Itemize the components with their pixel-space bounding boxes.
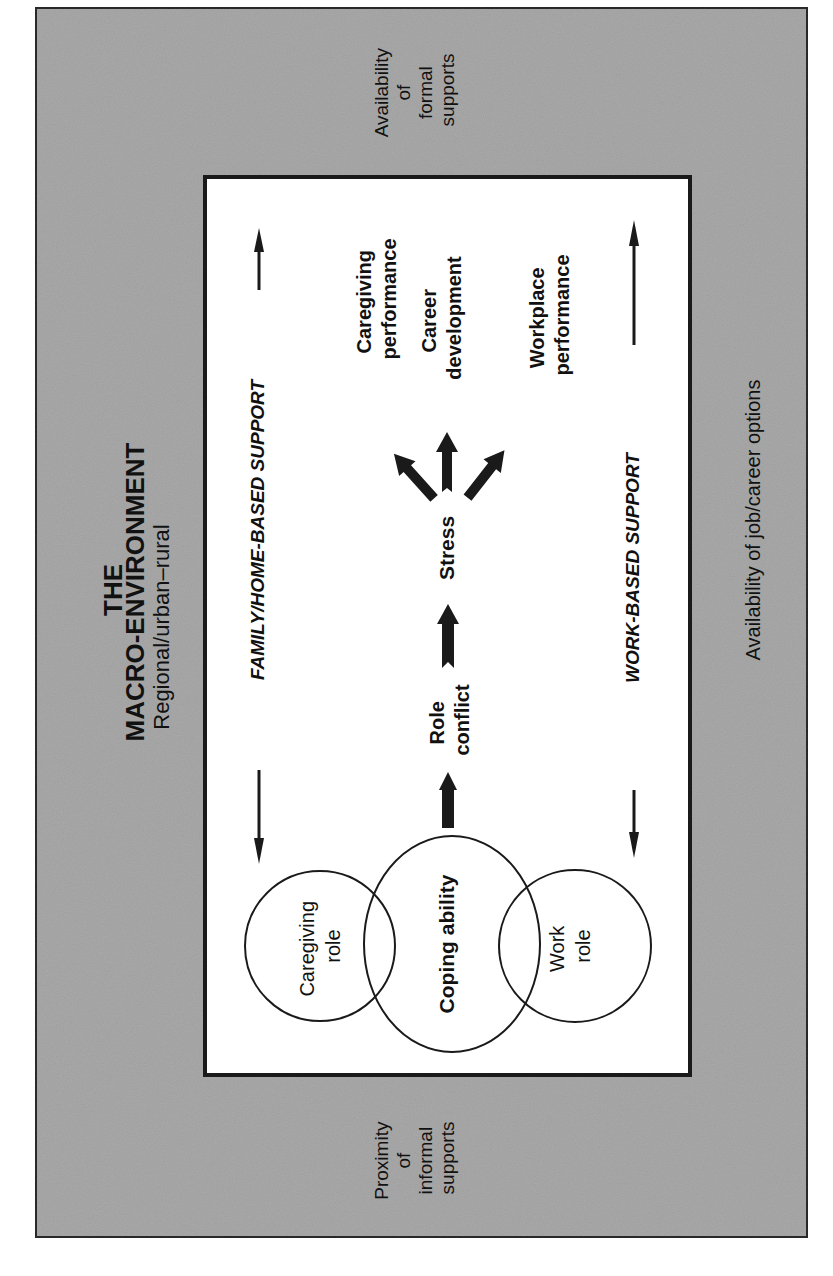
informal-supports-label: Proximity of informal supports xyxy=(371,1116,458,1199)
macro-environment-diagram: THE MACRO-ENVIRONMENT Regional/urban–rur… xyxy=(0,0,833,1276)
svg-text:Coping ability: Coping ability xyxy=(435,874,458,1013)
svg-text:Stress: Stress xyxy=(435,516,458,580)
svg-text:Proximity of infor: Proximity of informal supports xyxy=(371,1116,458,1199)
svg-text:Availability of job/career opt: Availability of job/career options xyxy=(742,380,764,661)
work-support-label: WORK-BASED SUPPORT xyxy=(622,452,643,683)
job-career-options-label: Availability of job/career options xyxy=(742,380,764,661)
svg-text:MACRO-ENVIRONMENT: MACRO-ENVIRONMENT xyxy=(120,442,150,741)
coping-ability-label: Coping ability xyxy=(435,874,458,1013)
family-support-label: FAMILY/HOME-BASED SUPPORT xyxy=(247,379,268,681)
svg-text:Regional/urban–rural: Regional/urban–rural xyxy=(149,524,174,729)
svg-text:WORK-BASED SUPPORT: WORK-BASED SUPPORT xyxy=(622,452,643,683)
stress-label: Stress xyxy=(435,516,458,580)
svg-text:FAMILY/HOME-BASED SUPPORT: FAMILY/HOME-BASED SUPPORT xyxy=(247,379,268,681)
macro-subtitle: Regional/urban–rural xyxy=(149,524,174,729)
macro-title-line2: MACRO-ENVIRONMENT xyxy=(120,442,150,741)
